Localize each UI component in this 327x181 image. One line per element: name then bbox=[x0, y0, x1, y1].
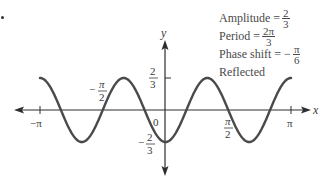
y-axis-label: y bbox=[160, 26, 167, 40]
svg-text:3: 3 bbox=[147, 144, 153, 156]
y-tick-neg-two-thirds: − 2 3 bbox=[138, 131, 155, 156]
y-axis bbox=[162, 40, 172, 176]
svg-text:2: 2 bbox=[225, 128, 231, 140]
svg-text:2: 2 bbox=[147, 131, 153, 143]
x-tick-neg-half-pi: − π 2 bbox=[89, 78, 107, 103]
y-tick-two-thirds: 2 3 bbox=[149, 65, 158, 90]
svg-text:π: π bbox=[225, 115, 231, 127]
svg-text:−: − bbox=[138, 136, 144, 148]
svg-text:−: − bbox=[89, 83, 95, 95]
svg-text:2: 2 bbox=[99, 91, 105, 103]
x-tick-pi: π bbox=[287, 117, 293, 129]
svg-text:2: 2 bbox=[150, 65, 156, 77]
period-annotation: Period = 2π3 bbox=[219, 27, 300, 45]
annotation-box: Amplitude = 23 Period = 2π3 Phase shift … bbox=[219, 9, 300, 81]
x-axis-label: x bbox=[312, 103, 319, 117]
amplitude-annotation: Amplitude = 23 bbox=[219, 9, 300, 27]
reflected-annotation: Reflected bbox=[219, 63, 300, 81]
svg-text:π: π bbox=[99, 78, 105, 90]
x-tick-zero: 0 bbox=[153, 116, 159, 128]
phase-shift-annotation: Phase shift = − π6 bbox=[219, 45, 300, 63]
x-tick-neg-pi: −π bbox=[30, 117, 42, 129]
svg-text:3: 3 bbox=[150, 78, 156, 90]
